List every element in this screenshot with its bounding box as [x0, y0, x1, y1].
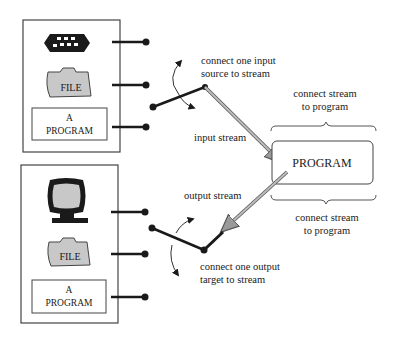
program-box: connect stream to program PROGRAM connec… [271, 88, 376, 236]
bottom-brace [271, 195, 376, 204]
keyboard-icon [44, 34, 90, 52]
input-switch [150, 61, 209, 111]
program-label-a: A [66, 285, 73, 295]
terminal-dot [143, 82, 150, 89]
rotate-up-arrow-icon [176, 219, 193, 233]
program-label-a: A [66, 113, 73, 123]
program-label: PROGRAM [46, 298, 94, 308]
output-targets-panel: FILE A PROGRAM [21, 165, 118, 323]
connect-stream-top-label: connect stream [293, 88, 356, 99]
terminal-dot [142, 251, 149, 258]
connect-output-label-2: target to stream [200, 274, 265, 285]
file-label: FILE [60, 82, 81, 93]
streams-diagram: FILE A PROGRAM connect one input source … [0, 0, 395, 338]
terminal-dot [142, 294, 149, 301]
top-brace [271, 122, 376, 131]
connect-stream-bottom-label-2: to program [304, 225, 350, 236]
terminal-dot [143, 124, 150, 131]
program-target-box: A PROGRAM [32, 280, 106, 313]
connect-stream-bottom-label: connect stream [295, 212, 358, 223]
output-stream-arrow [222, 172, 287, 231]
program-label-main: PROGRAM [292, 156, 352, 170]
connect-stream-top-label-2: to program [302, 101, 348, 112]
input-sources-panel: FILE A PROGRAM [23, 20, 120, 152]
connect-input-label-2: source to stream [201, 68, 270, 79]
rotate-up-arrow-icon [173, 61, 181, 93]
terminal-dot [143, 39, 150, 46]
connect-output-label: connect one output [200, 261, 280, 272]
input-stream-arrow [205, 87, 281, 162]
file-label: FILE [59, 251, 80, 262]
rotate-down-arrow-icon [171, 245, 178, 275]
program-label: PROGRAM [46, 126, 94, 136]
connect-input-label: connect one input [201, 55, 276, 66]
input-stream-label: input stream [194, 132, 246, 143]
program-source-box: A PROGRAM [32, 108, 107, 140]
output-stream-label: output stream [184, 190, 241, 201]
terminal-dot [142, 209, 149, 216]
folder-icon: FILE [47, 68, 91, 97]
folder-icon: FILE [48, 238, 90, 266]
